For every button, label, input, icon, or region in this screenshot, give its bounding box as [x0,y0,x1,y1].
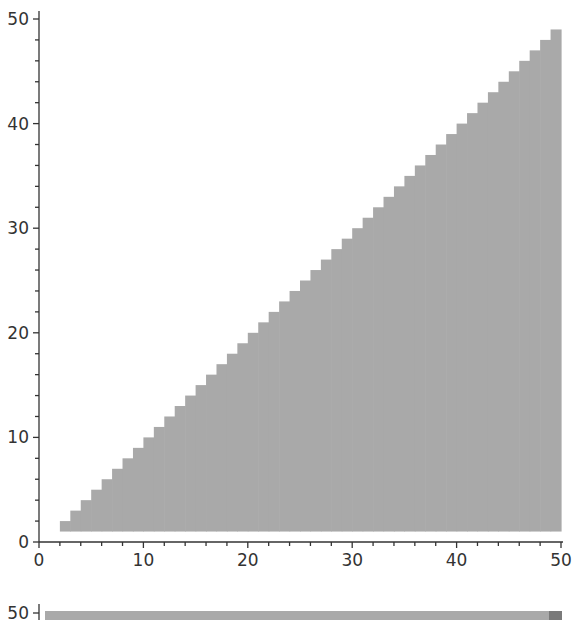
bar [248,333,259,532]
bar [216,364,227,531]
bar [206,375,217,532]
bar [519,61,530,532]
bar [373,207,384,531]
bar [60,521,71,531]
bar [300,281,311,532]
bar [509,71,520,531]
bar [342,239,353,532]
y-tick-label: 40 [7,114,29,134]
bar [321,260,332,532]
bar [112,469,123,532]
x-tick-label: 50 [550,550,572,570]
bar [477,103,488,532]
bar [269,312,280,532]
bar [143,437,154,531]
x-tick-label: 40 [446,550,468,570]
bar [551,29,562,531]
bar [196,385,207,531]
staircase-bar-chart: 010203040500102030405050 [0,0,579,620]
bar [102,479,113,531]
bar [91,490,102,532]
y-tick-label: 30 [7,218,29,238]
bar [237,343,248,531]
bar [279,301,290,531]
bar [227,354,238,532]
x-tick-label: 0 [34,550,45,570]
second-chart-partial: 50 [7,603,562,620]
bar [404,176,415,532]
chart-container: 010203040500102030405050 [0,0,579,620]
bar [81,500,92,531]
bar [185,396,196,532]
bar [436,145,447,532]
bar [498,82,509,532]
bar [457,124,468,532]
bar [123,458,134,531]
bar [331,249,342,531]
x-tick-label: 20 [237,550,259,570]
x-tick-label: 30 [341,550,363,570]
y-tick-label: 20 [7,323,29,343]
bar [530,50,541,531]
bar [290,291,301,532]
bar [415,165,426,531]
bar [394,186,405,531]
bar [154,427,165,532]
bar [467,113,478,531]
bar [384,197,395,532]
bar [258,322,269,531]
bar [133,448,144,532]
bar [310,270,321,532]
bar [540,40,551,532]
bar [352,228,363,531]
y-tick-label: 10 [7,427,29,447]
bar [164,416,175,531]
second-chart-dark-cell [549,611,562,620]
y-tick-label: 0 [18,532,29,552]
second-y-tick-label: 50 [7,603,29,620]
second-chart-band [45,611,549,620]
bar [488,92,499,531]
x-tick-label: 10 [133,550,155,570]
bar [425,155,436,532]
bar [446,134,457,531]
bar [70,511,81,532]
bar [175,406,186,532]
bars [60,29,562,531]
y-tick-label: 50 [7,9,29,29]
bar [363,218,374,532]
